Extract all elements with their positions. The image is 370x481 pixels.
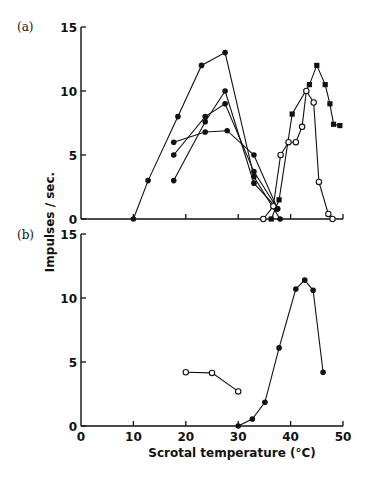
x-tick-label: 20: [177, 430, 194, 444]
data-marker-filled: [302, 277, 308, 283]
data-marker-filled: [277, 216, 283, 222]
data-marker-filled: [171, 139, 177, 145]
data-marker-filled: [222, 88, 228, 94]
x-tick-label: 30: [230, 430, 247, 444]
y-tick-label: 5: [69, 149, 77, 163]
figure: (a)051015 (b)05101501020304050 Impulses …: [0, 0, 370, 481]
data-marker-open: [183, 370, 188, 375]
data-marker-filled: [320, 369, 326, 375]
data-marker-square: [314, 63, 319, 68]
y-axis-title: Impulses / sec.: [43, 172, 57, 272]
data-marker-open: [330, 216, 335, 221]
data-marker-filled: [250, 416, 256, 422]
data-marker-open: [236, 389, 241, 394]
data-marker-open: [293, 140, 298, 145]
data-marker-open: [271, 204, 276, 209]
data-marker-square: [269, 216, 274, 221]
data-marker-open: [326, 211, 331, 216]
data-marker-filled: [222, 101, 228, 107]
y-tick-label: 15: [60, 21, 77, 35]
data-marker-square: [323, 82, 328, 87]
panel-label: (a): [17, 20, 34, 34]
data-marker-square: [290, 111, 295, 116]
x-tick-label: 40: [282, 430, 299, 444]
data-marker-filled: [171, 152, 177, 158]
data-marker-filled: [251, 180, 257, 186]
data-marker-filled: [235, 423, 241, 429]
data-marker-filled: [224, 128, 230, 134]
data-marker-open: [299, 124, 304, 129]
data-marker-open: [261, 216, 266, 221]
data-marker-filled: [202, 119, 208, 125]
series-line: [174, 131, 278, 209]
data-marker-filled: [251, 169, 257, 175]
data-marker-open: [316, 179, 321, 184]
data-marker-square: [331, 122, 336, 127]
data-marker-open: [311, 100, 316, 105]
data-marker-filled: [175, 114, 181, 120]
y-tick-label: 0: [69, 213, 77, 227]
series-line: [238, 280, 323, 426]
panel-label: (b): [17, 228, 34, 242]
data-marker-square: [276, 197, 281, 202]
data-marker-filled: [222, 50, 228, 56]
y-tick-label: 0: [69, 420, 77, 434]
x-tick-label: 50: [335, 430, 352, 444]
chart-svg: (a)051015 (b)05101501020304050 Impulses …: [0, 0, 370, 481]
data-marker-filled: [276, 345, 282, 351]
data-marker-filled: [199, 63, 205, 69]
data-marker-square: [327, 101, 332, 106]
data-marker-open: [286, 140, 291, 145]
y-tick-label: 15: [60, 228, 77, 242]
data-marker-filled: [310, 288, 316, 294]
panel-b: (b)05101501020304050: [17, 228, 351, 445]
data-marker-square: [307, 82, 312, 87]
data-marker-open: [278, 152, 283, 157]
data-marker-filled: [131, 216, 137, 222]
data-marker-filled: [251, 152, 257, 158]
data-marker-square: [337, 123, 342, 128]
data-marker-filled: [202, 129, 208, 135]
y-tick-label: 5: [69, 356, 77, 370]
series-line: [263, 91, 332, 219]
data-marker-filled: [293, 286, 299, 292]
series-line: [174, 91, 278, 209]
x-axis-title: Scrotal temperature (°C): [148, 446, 315, 460]
data-marker-filled: [171, 178, 177, 184]
data-marker-filled: [145, 178, 151, 184]
x-tick-label: 10: [125, 430, 142, 444]
y-tick-label: 10: [60, 292, 77, 306]
data-marker-filled: [262, 400, 268, 406]
panel-a: (a)051015: [17, 20, 343, 227]
series-line: [174, 104, 278, 209]
data-marker-open: [209, 370, 214, 375]
x-tick-label: 0: [77, 430, 85, 444]
y-tick-label: 10: [60, 85, 77, 99]
data-marker-open: [304, 88, 309, 93]
series-line: [133, 53, 280, 219]
